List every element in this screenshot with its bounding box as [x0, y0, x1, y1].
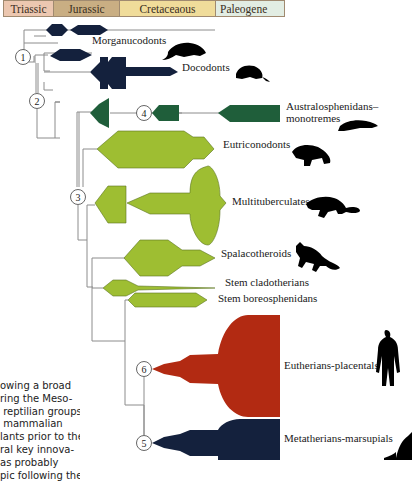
svg-text:5: 5: [142, 438, 147, 449]
clade-label-australosphenidans-monotremes: Australosphenidans–monotremes: [286, 100, 378, 124]
node-4-marker: 4: [137, 106, 152, 121]
node-6-marker: 6: [137, 362, 152, 377]
caption-line: owing a broad: [0, 380, 80, 393]
node-2-marker: 2: [30, 94, 45, 109]
caption-line: as probably: [0, 457, 80, 470]
node-5-marker: 5: [137, 436, 152, 451]
docodonts-spindle: [90, 57, 178, 89]
light-green-spindles: [95, 131, 226, 307]
svg-text:6: 6: [142, 364, 147, 375]
clade-label-spalacotheroids: Spalacotheroids: [221, 247, 291, 259]
caption-line: lants prior to the: [0, 431, 80, 444]
clade-label-docodonts: Docodonts: [182, 61, 230, 73]
clade-label-eutherians-placentals: Eutherians-placentals: [284, 359, 379, 371]
stem-boreosphenidans-spindle: [128, 293, 207, 307]
clade-label-stem-cladotherians: Stem cladotherians: [225, 276, 309, 288]
caption-line: ring the Meso-: [0, 393, 80, 406]
eutriconodonts-spindle: [97, 131, 214, 168]
caption-line: pic following the: [0, 470, 80, 482]
svg-text:4: 4: [142, 108, 147, 119]
clade-label-metatherians-marsupials: Metatherians-marsupials: [284, 432, 393, 444]
figure-caption-fragment: owing a broadring the Meso- reptilian gr…: [0, 380, 80, 482]
node-1-marker: 1: [16, 50, 31, 65]
svg-text:2: 2: [35, 96, 40, 107]
caption-line: reptilian groups,: [0, 406, 80, 419]
spalacotheroids-spindle: [124, 240, 215, 276]
morganucodonts-spindle: [50, 49, 92, 61]
caption-line: ral key innova-: [0, 444, 80, 457]
caption-line: mammalian: [0, 418, 80, 431]
multituberculates-spindle: [95, 166, 226, 245]
node-3-marker: 3: [71, 190, 86, 205]
svg-text:1: 1: [21, 52, 26, 63]
svg-text:3: 3: [76, 192, 81, 203]
clade-label-multituberculates: Multituberculates: [232, 195, 310, 207]
clade-label-morganucodonts: Morganucodonts: [92, 34, 166, 46]
clade-label-eutriconodonts: Eutriconodonts: [223, 138, 290, 150]
clade-label-stem-boreosphenidans: Stem boreosphenidans: [218, 292, 317, 304]
metatherians-spindle: [152, 419, 280, 460]
eutherians-spindle: [152, 315, 280, 417]
